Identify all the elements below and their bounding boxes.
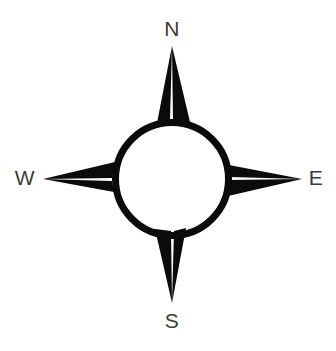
compass-rose-figure: N E S W [0, 0, 336, 351]
compass-rose-graphic: N E S W [0, 0, 336, 351]
cardinal-label-north: N [164, 17, 180, 40]
cardinal-label-east: E [309, 166, 324, 189]
figure-background [0, 0, 336, 351]
cardinal-label-west: W [15, 166, 35, 189]
cardinal-label-south: S [165, 309, 180, 332]
